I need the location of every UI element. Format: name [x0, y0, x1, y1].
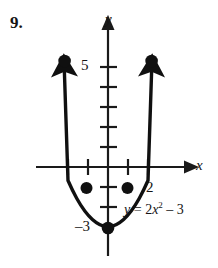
y-tick-label-minus-3: –3 — [75, 219, 90, 234]
equation-minus: – — [166, 202, 173, 217]
parabola-graph — [0, 0, 218, 268]
parabola-curve-left — [64, 72, 108, 227]
equation-equals: = — [134, 202, 142, 217]
y-axis-label: y — [105, 12, 112, 27]
equation-exponent: 2 — [158, 200, 163, 210]
equation-label: y = 2x2 – 3 — [124, 203, 184, 217]
x-tick-label-2: 2 — [146, 180, 154, 195]
point-vertex-0-neg3 — [102, 222, 115, 235]
y-tick-label-5: 5 — [81, 58, 89, 73]
point-2-5 — [145, 55, 158, 68]
point-neg1-neg1 — [81, 182, 93, 194]
equation-constant: 3 — [177, 202, 184, 217]
equation-lhs: y — [124, 202, 130, 217]
point-neg2-5 — [58, 55, 71, 68]
x-axis-label: x — [196, 158, 203, 173]
figure-panel: 9. y x 5 2 –3 y = 2x2 – 3 — [0, 0, 218, 268]
problem-number: 9. — [10, 14, 23, 31]
point-1-neg1 — [122, 182, 134, 194]
